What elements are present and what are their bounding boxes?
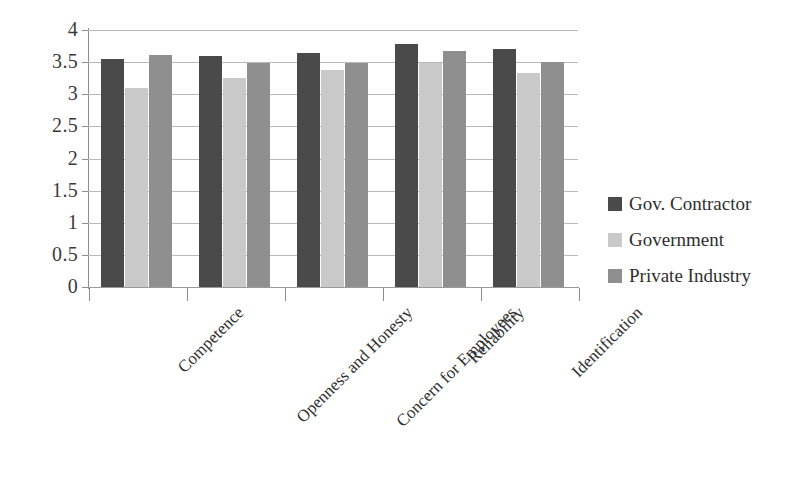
y-axis-tick-label: 2: [8, 148, 78, 168]
bar[interactable]: [395, 44, 418, 288]
x-axis-tick: [285, 288, 286, 301]
plot-area: [88, 30, 578, 287]
y-axis-tick-label: 3: [8, 83, 78, 103]
y-axis-tick: [82, 287, 88, 288]
bar[interactable]: [419, 63, 442, 287]
bar[interactable]: [493, 49, 516, 287]
legend: Gov. ContractorGovernmentPrivate Industr…: [608, 186, 798, 294]
bar[interactable]: [345, 63, 368, 287]
bar[interactable]: [125, 88, 148, 287]
legend-swatch-icon: [608, 269, 622, 283]
legend-item[interactable]: Private Industry: [608, 258, 798, 294]
bar-group: [199, 30, 270, 287]
bar[interactable]: [247, 63, 270, 287]
bar[interactable]: [223, 78, 246, 287]
legend-label: Government: [629, 230, 724, 250]
y-axis-tick-label: 0.5: [8, 244, 78, 264]
bar-chart: 43.532.521.510.50 CompetenceOpenness and…: [0, 0, 802, 482]
x-axis-tick: [383, 288, 384, 301]
legend-label: Gov. Contractor: [629, 194, 751, 214]
x-axis-category-label: Identification: [568, 303, 646, 381]
bar-group: [297, 30, 368, 287]
y-axis-tick-label: 2.5: [8, 115, 78, 135]
x-axis-tick: [579, 288, 580, 301]
bar-group: [101, 30, 172, 287]
bar-group: [493, 30, 564, 287]
x-axis-tick: [89, 288, 90, 301]
bar[interactable]: [517, 73, 540, 287]
legend-item[interactable]: Gov. Contractor: [608, 186, 798, 222]
y-axis-tick-label: 1: [8, 212, 78, 232]
legend-swatch-icon: [608, 233, 622, 247]
y-axis-tick-label: 4: [8, 19, 78, 39]
y-axis-tick-label: 0: [8, 276, 78, 296]
legend-item[interactable]: Government: [608, 222, 798, 258]
x-axis-tick: [187, 288, 188, 301]
legend-label: Private Industry: [629, 266, 751, 286]
x-axis-category-label: Openness and Honesty: [293, 303, 417, 427]
bar[interactable]: [541, 62, 564, 287]
y-axis-tick-labels: 43.532.521.510.50: [0, 0, 78, 482]
x-axis-category-label: Competence: [174, 303, 248, 377]
y-axis-tick-label: 1.5: [8, 180, 78, 200]
y-axis-tick-label: 3.5: [8, 51, 78, 71]
bar[interactable]: [297, 53, 320, 288]
bar[interactable]: [443, 51, 466, 287]
legend-swatch-icon: [608, 197, 622, 211]
bar[interactable]: [149, 55, 172, 287]
bar[interactable]: [101, 59, 124, 287]
bar-group: [395, 30, 466, 287]
x-axis-tick: [481, 288, 482, 301]
bar[interactable]: [321, 70, 344, 287]
bar[interactable]: [199, 56, 222, 287]
gridline: [88, 287, 578, 288]
